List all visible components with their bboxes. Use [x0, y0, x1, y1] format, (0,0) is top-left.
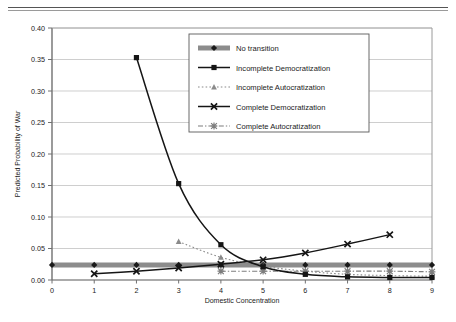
- data-point-marker-square: [429, 275, 434, 280]
- x-tick-label: 0: [50, 286, 54, 295]
- y-tick-labels-group: 0.000.050.100.150.200.250.300.350.40: [31, 24, 52, 285]
- x-axis-title: Domestic Concentration: [205, 297, 280, 304]
- data-point-marker-square: [134, 55, 139, 60]
- legend-label: Complete Autocratization: [236, 122, 320, 131]
- x-tick-label: 5: [261, 286, 265, 295]
- data-point-marker-square: [303, 272, 308, 277]
- legend-label: Complete Democratization: [236, 103, 325, 112]
- x-tick-labels-group: 0123456789: [50, 280, 434, 295]
- y-tick-label: 0.30: [31, 87, 45, 96]
- y-tick-label: 0.40: [31, 24, 45, 33]
- data-point-marker-square: [387, 275, 392, 280]
- x-tick-label: 7: [346, 286, 350, 295]
- data-point-marker-square: [176, 181, 181, 186]
- y-tick-label: 0.35: [31, 55, 45, 64]
- legend-label: Incomplete Democratization: [236, 64, 330, 73]
- chart-legend: No transitionIncomplete DemocratizationI…: [189, 34, 369, 132]
- figure-container: 0.000.050.100.150.200.250.300.350.40 012…: [0, 0, 456, 322]
- x-tick-label: 3: [177, 286, 181, 295]
- y-tick-label: 0.25: [31, 118, 45, 127]
- data-point-marker-triangle: [176, 238, 182, 244]
- data-point-marker-square: [345, 274, 350, 279]
- data-point-marker-square: [211, 65, 216, 70]
- x-tick-label: 4: [219, 286, 223, 295]
- series-line: [94, 235, 390, 274]
- y-tick-label: 0.20: [31, 150, 45, 159]
- series-line: [221, 271, 432, 272]
- x-tick-label: 1: [92, 286, 96, 295]
- x-tick-label: 6: [303, 286, 307, 295]
- legend-label: No transition: [236, 44, 279, 53]
- data-point-marker-asterisk: [386, 268, 393, 275]
- chart-canvas: 0.000.050.100.150.200.250.300.350.40 012…: [0, 0, 456, 322]
- y-tick-label: 0.05: [31, 244, 45, 253]
- data-point-marker-asterisk: [429, 268, 436, 275]
- x-tick-label: 9: [430, 286, 434, 295]
- data-point-marker-asterisk: [217, 268, 224, 275]
- data-point-marker-square: [218, 242, 223, 247]
- series-complete-autocratization: [217, 268, 435, 275]
- y-tick-label: 0.10: [31, 213, 45, 222]
- x-tick-label: 2: [134, 286, 138, 295]
- y-axis-title: Predicted Probability of War: [14, 110, 22, 197]
- legend-label: Incomplete Autocratization: [236, 83, 325, 92]
- data-point-marker-asterisk: [211, 123, 218, 130]
- x-tick-label: 8: [388, 286, 392, 295]
- y-tick-label: 0.15: [31, 181, 45, 190]
- data-point-marker-square: [261, 264, 266, 269]
- data-point-marker-asterisk: [344, 268, 351, 275]
- y-tick-label: 0.00: [31, 276, 45, 285]
